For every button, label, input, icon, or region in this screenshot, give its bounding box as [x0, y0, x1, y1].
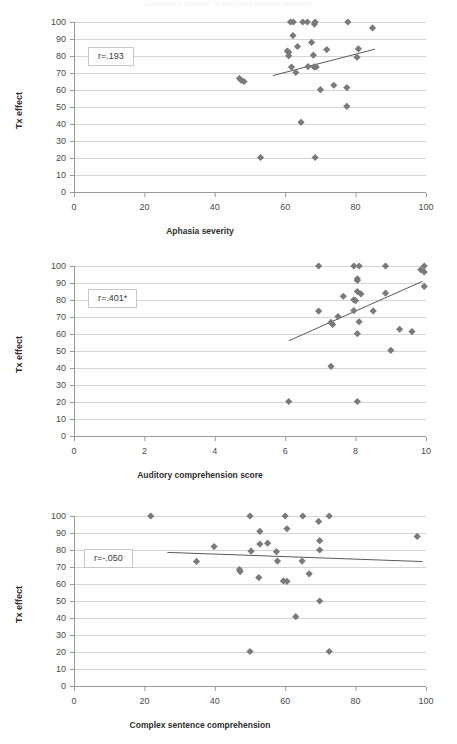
y-tick-label: 50	[40, 347, 66, 356]
x-tick-label: 40	[200, 697, 230, 706]
y-tick-label: 10	[40, 665, 66, 674]
data-point	[382, 262, 389, 269]
data-point	[326, 512, 333, 519]
y-tick-label: 30	[40, 381, 66, 390]
figure-title: Correlations between Tx effect and basel…	[0, 0, 457, 7]
x-tick-label: 60	[270, 697, 300, 706]
x-tick-label: 0	[59, 203, 89, 212]
scatter-panel-auditory-comprehension: 01020304050607080901000246810Tx effectAu…	[0, 0, 457, 744]
data-point	[236, 566, 243, 573]
data-point	[210, 543, 217, 550]
data-point	[334, 313, 341, 320]
data-point	[299, 512, 306, 519]
trendline	[273, 49, 375, 75]
plot-canvas-complex-sentence-comprehension	[0, 0, 457, 744]
data-point	[356, 318, 363, 325]
y-tick-label: 50	[40, 103, 66, 112]
axis-lines	[70, 516, 427, 691]
x-axis-label: Auditory comprehension score	[24, 470, 376, 480]
y-tick-label: 20	[40, 648, 66, 657]
data-point	[370, 307, 377, 314]
plot-canvas-aphasia-severity	[0, 0, 457, 744]
axis-lines	[70, 266, 427, 441]
data-point	[247, 548, 254, 555]
data-point	[255, 574, 262, 581]
figure-root: Correlations between Tx effect and basel…	[0, 0, 457, 744]
y-tick-label: 80	[40, 52, 66, 61]
data-point	[304, 18, 311, 25]
x-tick-label: 2	[129, 447, 159, 456]
y-tick-label: 90	[40, 279, 66, 288]
y-tick-label: 80	[40, 546, 66, 555]
x-tick-label: 6	[270, 447, 300, 456]
data-point	[354, 275, 361, 282]
y-tick-label: 100	[40, 512, 66, 521]
data-point	[350, 307, 357, 314]
gridlines	[74, 267, 426, 437]
trendline	[289, 281, 423, 341]
data-point	[285, 52, 292, 59]
data-point	[369, 24, 376, 31]
data-point	[316, 537, 323, 544]
data-point	[312, 154, 319, 161]
y-tick-label: 40	[40, 120, 66, 129]
data-point	[256, 528, 263, 535]
x-axis-label: Aphasia severity	[24, 226, 376, 236]
x-tick-label: 80	[341, 697, 371, 706]
data-point	[421, 268, 428, 275]
data-point	[354, 277, 361, 284]
data-point	[421, 262, 428, 269]
x-tick-label: 80	[341, 203, 371, 212]
data-point	[313, 63, 320, 70]
data-point	[396, 326, 403, 333]
data-point	[350, 296, 357, 303]
data-point	[288, 63, 295, 70]
data-point	[414, 533, 421, 540]
data-point	[308, 39, 315, 46]
y-axis-label: Tx effect	[14, 92, 24, 129]
data-point	[353, 54, 360, 61]
data-point	[246, 512, 253, 519]
data-point	[240, 78, 247, 85]
y-tick-label: 20	[40, 154, 66, 163]
x-tick-label: 100	[411, 203, 441, 212]
data-point	[257, 154, 264, 161]
scatter-panel-complex-sentence-comprehension: 0102030405060708090100020406080100Tx eff…	[0, 0, 457, 744]
data-point	[284, 47, 291, 54]
x-tick-label: 100	[411, 697, 441, 706]
data-point	[304, 63, 311, 70]
data-point	[343, 84, 350, 91]
data-point	[292, 613, 299, 620]
data-point	[329, 321, 336, 328]
data-point	[344, 18, 351, 25]
data-point	[287, 18, 294, 25]
data-point	[256, 540, 263, 547]
data-point	[387, 347, 394, 354]
x-axis-label: Complex sentence comprehension	[24, 720, 376, 730]
y-tick-label: 60	[40, 86, 66, 95]
data-point	[282, 512, 289, 519]
y-tick-label: 70	[40, 563, 66, 572]
x-tick-label: 10	[411, 447, 441, 456]
y-tick-label: 50	[40, 597, 66, 606]
y-tick-label: 100	[40, 262, 66, 271]
y-tick-label: 60	[40, 580, 66, 589]
data-point	[327, 363, 334, 370]
data-point	[283, 525, 290, 532]
y-tick-label: 80	[40, 296, 66, 305]
data-point	[274, 557, 281, 564]
data-point	[357, 290, 364, 297]
data-point	[354, 398, 361, 405]
data-point	[147, 512, 154, 519]
data-point	[417, 266, 424, 273]
x-tick-label: 40	[200, 203, 230, 212]
y-tick-label: 90	[40, 529, 66, 538]
gridlines	[74, 517, 426, 687]
data-point	[306, 570, 313, 577]
data-point	[355, 45, 362, 52]
data-point	[315, 307, 322, 314]
y-tick-label: 30	[40, 137, 66, 146]
axis-lines	[70, 22, 427, 197]
data-point	[343, 103, 350, 110]
data-point	[246, 648, 253, 655]
